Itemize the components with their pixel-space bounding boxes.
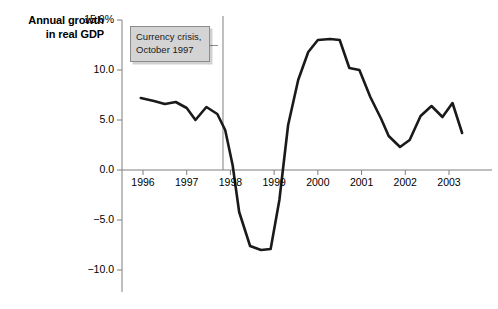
y-tick-label: 5.0 xyxy=(68,113,114,125)
annotation-text-line-1: Currency crisis, xyxy=(136,31,204,44)
y-tick-label: 10.0 xyxy=(68,63,114,75)
x-tick-label: 2000 xyxy=(295,176,341,188)
y-tick-label: −5.0 xyxy=(68,213,114,225)
x-tick-label: 2003 xyxy=(426,176,472,188)
y-tick-label: −10.0 xyxy=(68,263,114,275)
x-tick-label: 1999 xyxy=(251,176,297,188)
x-tick-label: 1998 xyxy=(207,176,253,188)
gdp-growth-chart: Annual growth in real GDP 15.0%10.05.00.… xyxy=(0,0,498,309)
x-tick-label: 1997 xyxy=(164,176,210,188)
annotation-text-line-2: October 1997 xyxy=(136,44,204,57)
y-axis-title-line-2: in real GDP xyxy=(46,28,104,40)
x-tick-label: 2001 xyxy=(339,176,385,188)
x-tick-label: 1996 xyxy=(120,176,166,188)
gdp-growth-line xyxy=(141,39,462,250)
annotation-leader-line xyxy=(210,45,218,46)
y-tick-label: 0.0 xyxy=(68,163,114,175)
currency-crisis-annotation: Currency crisis, October 1997 xyxy=(130,26,210,62)
y-tick-label: 15.0% xyxy=(68,13,114,25)
x-tick-label: 2002 xyxy=(382,176,428,188)
